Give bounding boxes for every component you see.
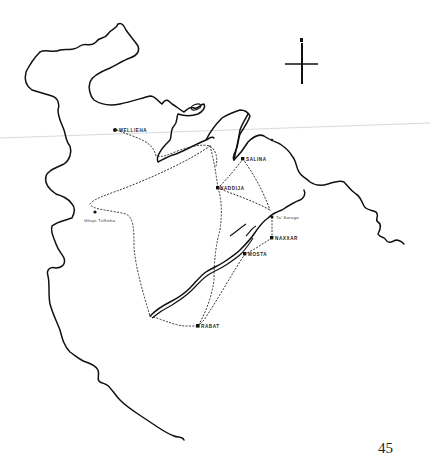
escarpment-fragment-1 xyxy=(230,224,246,236)
escarpment-upper xyxy=(150,190,305,316)
town-mosta: MOSTA xyxy=(243,252,267,257)
town-ghajn-tuffieha: Ghajn Tuffieha xyxy=(84,210,116,223)
islet-dot xyxy=(271,139,273,141)
town-label: SALINA xyxy=(246,157,267,162)
town-naddija: NADDIJA xyxy=(216,186,245,191)
route-salina-tasarago xyxy=(243,159,270,210)
town-mellieha: MELLIEHA xyxy=(113,128,147,133)
escarpment-lower xyxy=(152,238,253,318)
town-rabat: RABAT xyxy=(196,324,220,329)
route-naddija-west xyxy=(210,146,218,188)
route-salina-naddija xyxy=(218,159,243,188)
town-label: NAXXAR xyxy=(275,236,298,241)
town-label: Ta' Sarago xyxy=(276,215,299,220)
town-ta-sarago: Ta' Sarago xyxy=(271,215,300,220)
route-rabat-west xyxy=(150,316,198,326)
town-label: NADDIJA xyxy=(220,186,245,191)
map-canvas: MELLIEHA SALINA NADDIJA Ta' Sarago NAXXA… xyxy=(0,0,430,473)
west-coastline xyxy=(40,23,214,162)
town-label: RABAT xyxy=(201,324,220,329)
town-label: MELLIEHA xyxy=(119,128,147,133)
west-coastline-lower xyxy=(25,52,184,440)
town-label: Ghajn Tuffieha xyxy=(84,218,116,223)
route-naddija-south xyxy=(198,188,221,326)
route-mosta-rabat xyxy=(198,254,245,326)
page-number: 45 xyxy=(378,440,393,457)
route-mellieha-west xyxy=(117,130,217,166)
town-label: MOSTA xyxy=(248,252,267,257)
town-naxxar: NAXXAR xyxy=(270,236,298,241)
north-arrow-icon xyxy=(285,38,318,84)
